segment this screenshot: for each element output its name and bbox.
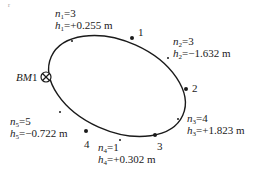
point-3-marker [153,133,157,137]
point-4-marker [84,129,88,133]
leveling-loop-diagram: r BM1 1 2 3 4 n1=3 h1=+0.255 m n2=3 h2=−… [0,0,257,173]
point-3-label: 3 [157,140,163,152]
route-tick [59,111,61,113]
route-tick [177,118,179,120]
route-tick [167,57,169,59]
point-2-marker [184,87,188,91]
point-1-marker [130,36,134,40]
point-4-label: 4 [84,138,90,150]
point-1-label: 1 [138,26,144,38]
section-5-h: h5=−0.722 m [10,127,67,143]
section-2-h: h2=−1.632 m [173,47,230,63]
point-2-label: 2 [192,82,198,94]
benchmark-label: BM1 [16,71,37,83]
section-4-h: h4=+0.302 m [98,153,155,169]
loop-graphic: r [0,0,257,173]
route-tick [119,139,121,141]
route-tick [71,40,73,42]
benchmark-symbol-icon [41,72,51,82]
corner-mark: r [8,2,10,8]
section-1-h: h1=+0.255 m [55,19,112,35]
section-3-h: h3=+1.823 m [187,124,244,140]
